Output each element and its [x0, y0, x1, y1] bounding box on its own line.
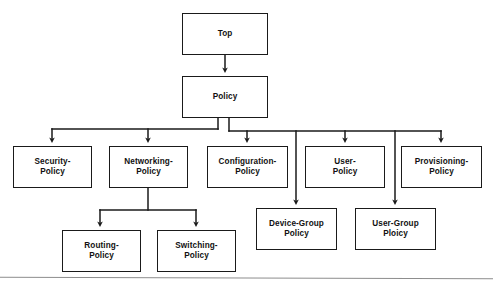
node-configuration-policy[interactable]: Configuration- Policy — [207, 146, 288, 188]
node-user-group-policy-label: User-Group Ploicy — [370, 219, 421, 238]
node-routing-policy-label: Routing- Policy — [82, 241, 120, 260]
node-routing-policy[interactable]: Routing- Policy — [62, 230, 141, 272]
node-networking-policy[interactable]: Networking- Policy — [109, 146, 188, 188]
node-provisioning-policy[interactable]: Provisioning- Policy — [401, 146, 482, 188]
page-bottom-rule — [0, 276, 493, 280]
node-networking-policy-label: Networking- Policy — [122, 157, 174, 176]
node-provisioning-policy-label: Provisioning- Policy — [413, 157, 471, 176]
node-device-group-policy-label: Device-Group Policy — [267, 219, 326, 238]
node-switching-policy[interactable]: Switching- Policy — [157, 230, 236, 272]
node-user-policy-label: User- Policy — [331, 157, 360, 176]
node-policy[interactable]: Policy — [182, 76, 268, 118]
edge-policy-right-bus — [229, 118, 441, 140]
node-security-policy[interactable]: Security- Policy — [13, 146, 92, 188]
node-user-group-policy[interactable]: User-Group Ploicy — [355, 208, 436, 250]
node-security-policy-label: Security- Policy — [33, 157, 73, 176]
node-policy-label: Policy — [211, 92, 240, 102]
node-device-group-policy[interactable]: Device-Group Policy — [256, 208, 337, 250]
edge-policy-left-bus — [52, 118, 218, 140]
node-top[interactable]: Top — [182, 13, 268, 55]
policy-hierarchy-diagram: Top Policy Security- Policy Networking- … — [0, 0, 493, 288]
node-switching-policy-label: Switching- Policy — [173, 241, 219, 260]
node-user-policy[interactable]: User- Policy — [305, 146, 385, 188]
edge-networking-bus — [100, 188, 196, 224]
node-configuration-policy-label: Configuration- Policy — [217, 157, 279, 176]
node-top-label: Top — [216, 29, 235, 39]
